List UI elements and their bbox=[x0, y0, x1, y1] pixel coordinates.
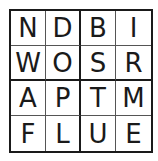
grid-cell: N bbox=[11, 11, 46, 46]
grid-cell: D bbox=[46, 11, 81, 46]
grid-cell: M bbox=[116, 81, 151, 116]
grid-cell: F bbox=[11, 116, 46, 151]
letter-grid: N D B I W O S R A P T M F L U E bbox=[9, 9, 153, 153]
grid-cell: O bbox=[46, 46, 81, 81]
grid-cell: R bbox=[116, 46, 151, 81]
grid-cell: T bbox=[81, 81, 116, 116]
grid-cell: P bbox=[46, 81, 81, 116]
grid-cell: W bbox=[11, 46, 46, 81]
grid-cell: E bbox=[116, 116, 151, 151]
grid-cell: L bbox=[46, 116, 81, 151]
grid-cell: B bbox=[81, 11, 116, 46]
grid-cell: S bbox=[81, 46, 116, 81]
grid-cell: U bbox=[81, 116, 116, 151]
grid-cell: I bbox=[116, 11, 151, 46]
grid-cell: A bbox=[11, 81, 46, 116]
